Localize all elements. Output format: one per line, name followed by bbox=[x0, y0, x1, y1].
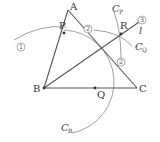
label-cp-sub: P bbox=[119, 8, 123, 15]
svg-text:2: 2 bbox=[86, 25, 90, 33]
label-p: P bbox=[59, 20, 66, 31]
arc-cb-lower bbox=[64, 30, 114, 133]
label-line-l: l bbox=[139, 25, 142, 36]
label-cq-sub: Q bbox=[142, 46, 147, 53]
label-cb-sub: B bbox=[68, 127, 73, 134]
label-c: C bbox=[139, 83, 147, 94]
point-q-dot bbox=[94, 87, 97, 90]
step-marker-3: 3 bbox=[138, 16, 146, 24]
step-marker-2b: 2 bbox=[117, 58, 125, 66]
geometry-diagram: A B C P Q R l C B C P C Q 1 2 2 3 bbox=[0, 0, 160, 142]
svg-text:1: 1 bbox=[19, 43, 23, 51]
step-marker-2a: 2 bbox=[84, 25, 92, 33]
arc-cq bbox=[94, 30, 132, 46]
point-b-dot bbox=[43, 87, 46, 90]
step-marker-1: 1 bbox=[17, 43, 25, 51]
svg-text:3: 3 bbox=[140, 16, 144, 24]
point-p-dot bbox=[63, 32, 66, 35]
label-q: Q bbox=[97, 89, 105, 100]
label-b: B bbox=[33, 83, 40, 94]
label-a: A bbox=[69, 1, 78, 12]
point-r-dot bbox=[120, 33, 123, 36]
svg-text:2: 2 bbox=[119, 58, 123, 66]
construction-figure: A B C P Q R l C B C P C Q 1 2 2 3 bbox=[0, 0, 160, 142]
label-r: R bbox=[120, 20, 128, 31]
